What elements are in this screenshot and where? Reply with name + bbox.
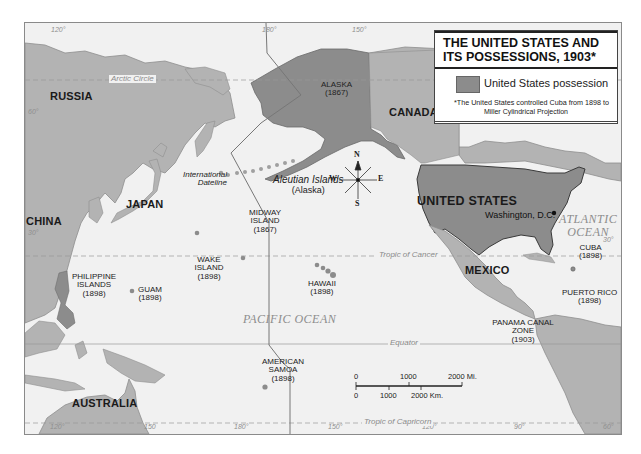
wake-dot: [195, 231, 200, 236]
degree-label: 150°: [328, 423, 342, 430]
tropic-of-capricorn-label: Tropic of Capricorn: [362, 418, 433, 426]
guam-dot: [130, 289, 135, 294]
degree-label: 30°: [28, 229, 39, 236]
scale-label: 0: [354, 392, 358, 400]
possession-swatch: [456, 76, 480, 93]
country-label-russia: RUSSIA: [50, 91, 93, 103]
possession-label-american-samoa: AMERICAN SAMOA (1898): [258, 358, 308, 383]
possession-label-cuba: CUBA (1898): [579, 244, 602, 261]
degree-label: 180°: [234, 423, 248, 430]
compass-north-label: N: [354, 151, 360, 159]
country-label-mexico: MEXICO: [465, 265, 510, 277]
projection-label: Miller Cylindrical Projection: [434, 108, 618, 122]
degree-label: 120°: [50, 423, 64, 430]
scale-label: 0: [354, 373, 358, 381]
compass-rose-graphic: [339, 161, 377, 199]
capital-label: Washington, D.C.: [485, 211, 555, 220]
possession-label-guam: GUAM (1898): [138, 286, 162, 303]
country-label-japan: JAPAN: [126, 199, 163, 211]
possession-label-midway: MIDWAY ISLAND (1867): [245, 209, 285, 234]
legend-key-label: United States possession: [484, 77, 608, 89]
tropic-of-cancer-label: Tropic of Cancer: [377, 251, 440, 259]
scale-label: 2000 Km.: [411, 392, 443, 400]
degree-label: 120°: [51, 26, 65, 33]
scale-bar-graphic: [356, 382, 462, 390]
compass-south-label: S: [355, 200, 359, 208]
degree-label: 150: [144, 423, 156, 430]
equator-label: Equator: [388, 339, 420, 347]
country-label-united-states: UNITED STATES: [417, 195, 517, 208]
international-dateline-label: International Dateline: [181, 171, 227, 188]
degree-label: 150°: [352, 26, 366, 33]
scale-label: 1000: [400, 373, 417, 381]
country-label-china: CHINA: [26, 216, 62, 228]
atlantic-ocean-label: ATLANTIC OCEAN: [559, 213, 617, 238]
possession-label-panama-canal-zone: PANAMA CANAL ZONE (1903): [488, 319, 558, 344]
scale-label: 2000 Mi.: [448, 373, 477, 381]
possession-label-hawaii: HAWAII (1898): [308, 280, 336, 297]
map-title: THE UNITED STATES AND ITS POSSESSIONS, 1…: [435, 31, 617, 69]
hawaii-dots: [315, 263, 336, 278]
degree-label: 60°: [28, 108, 39, 115]
midway-dot: [241, 256, 246, 261]
scale-label: 1000: [380, 392, 397, 400]
degree-label: 90°: [514, 423, 525, 430]
country-label-canada: CANADA: [389, 107, 438, 119]
compass-east-label: E: [378, 175, 383, 183]
compass-west-label: W: [329, 175, 337, 183]
arctic-circle-label: Arctic Circle: [109, 75, 156, 83]
degree-label: 60°: [603, 423, 614, 430]
degree-label: 180°: [262, 26, 276, 33]
country-label-australia: AUSTRALIA: [72, 398, 137, 410]
possession-label-puerto-rico: PUERTO RICO (1898): [562, 289, 617, 306]
pacific-ocean-label: PACIFIC OCEAN: [243, 313, 336, 326]
possession-label-wake: WAKE ISLAND (1898): [193, 256, 225, 281]
samoa-dot: [262, 384, 267, 389]
possession-label-philippines: PHILIPPINE ISLANDS (1898): [69, 273, 119, 298]
possession-label-alaska: ALASKA (1867): [321, 81, 352, 98]
